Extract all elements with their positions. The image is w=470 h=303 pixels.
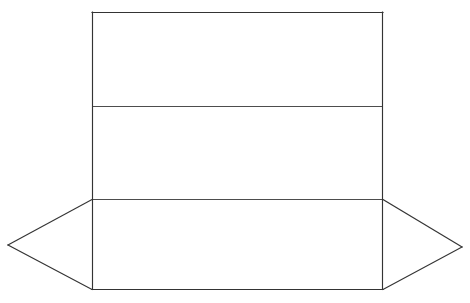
- diagram-canvas: [0, 0, 470, 303]
- bottom-panel-fill: [92, 199, 383, 289]
- box-net-diagram: [0, 0, 470, 303]
- middle-panel-fill: [92, 106, 383, 199]
- top-panel-fill: [92, 12, 383, 106]
